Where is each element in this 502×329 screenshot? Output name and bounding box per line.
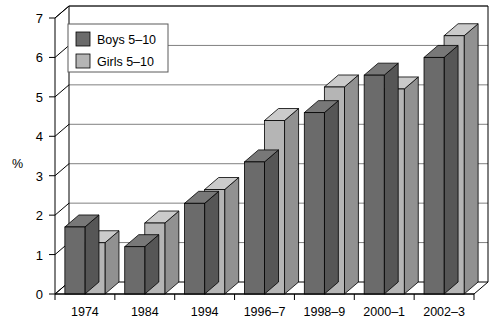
y-axis-tick-labels: 01234567 [36, 11, 43, 302]
legend-label-girls: Girls 5–10 [97, 55, 154, 69]
bar-boys-6 [424, 45, 458, 294]
x-category-label: 1998–9 [303, 305, 345, 319]
x-category-label: 1974 [71, 305, 99, 319]
bar-boys-0 [65, 215, 99, 294]
legend-label-boys: Boys 5–10 [97, 33, 156, 47]
bar-boys-1 [125, 235, 159, 294]
x-category-label: 1984 [131, 305, 159, 319]
y-tick-label: 5 [36, 90, 43, 105]
x-axis-line [55, 294, 474, 300]
bar-boys-3 [244, 150, 278, 294]
bar-boys-5 [364, 63, 398, 294]
y-tick-label: 2 [36, 208, 43, 223]
x-category-label: 2000–1 [363, 305, 405, 319]
legend-swatch-girls [76, 54, 90, 68]
y-tick-label: 1 [36, 248, 43, 263]
x-category-label: 2002–3 [423, 305, 465, 319]
x-category-label: 1994 [191, 305, 219, 319]
bar-group-1998-9 [304, 75, 358, 294]
x-axis-category-labels: 1974198419941996–71998–92000–12002–3 [71, 305, 465, 319]
bar-chart: 01234567 1974198419941996–71998–92000–12… [0, 0, 502, 329]
bar-boys-4 [304, 101, 338, 294]
bar-boys-2 [185, 191, 219, 294]
chart-canvas: 01234567 1974198419941996–71998–92000–12… [0, 0, 502, 329]
bar-group-2000-1 [364, 63, 418, 294]
x-category-label: 1996–7 [244, 305, 286, 319]
y-tick-label: 3 [36, 169, 43, 184]
y-tick-label: 4 [36, 129, 43, 144]
y-tick-label: 7 [36, 11, 43, 26]
y-tick-label: 0 [36, 287, 43, 302]
chart-legend: Boys 5–10Girls 5–10 [68, 24, 168, 72]
y-axis-title: % [12, 157, 23, 171]
y-tick-label: 6 [36, 50, 43, 65]
legend-swatch-boys [76, 32, 90, 46]
bar-group-2002-3 [424, 24, 478, 294]
